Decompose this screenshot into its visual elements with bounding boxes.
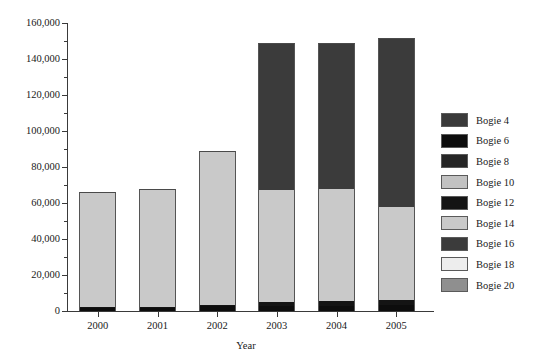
legend-swatch	[441, 196, 468, 210]
chart-figure: 020,00040,00060,00080,000100,000120,0001…	[0, 0, 541, 362]
bar-segment[interactable]	[199, 151, 236, 305]
y-axis-tick-label: 40,000	[31, 234, 60, 245]
x-axis-tick-label: 2004	[326, 320, 347, 331]
y-axis-labels: 020,00040,00060,00080,000100,000120,0001…	[0, 0, 67, 362]
x-axis-tick	[396, 311, 397, 317]
x-axis-tick-label: 2002	[207, 320, 228, 331]
y-axis-tick-minor	[64, 221, 68, 222]
legend-swatch	[441, 216, 468, 230]
legend-item[interactable]: Bogie 8	[441, 151, 539, 172]
bar-stack[interactable]	[139, 23, 176, 311]
legend-item[interactable]: Bogie 16	[441, 234, 539, 255]
bar-stack[interactable]	[258, 23, 295, 311]
bar-stack[interactable]	[199, 23, 236, 311]
legend-swatch	[441, 237, 468, 251]
bar-segment[interactable]	[318, 189, 355, 301]
bar-stack[interactable]	[79, 23, 116, 311]
bar-stack[interactable]	[378, 23, 415, 311]
legend-label: Bogie 10	[476, 177, 514, 188]
legend-label: Bogie 14	[476, 218, 514, 229]
chart-legend: Bogie 4Bogie 6Bogie 8Bogie 10Bogie 12Bog…	[441, 110, 539, 295]
y-axis-tick-major	[62, 167, 68, 168]
legend-swatch	[441, 113, 468, 127]
bar-segment[interactable]	[79, 192, 116, 307]
x-axis-tick	[158, 311, 159, 317]
y-axis-tick-minor	[64, 41, 68, 42]
legend-item[interactable]: Bogie 14	[441, 213, 539, 234]
y-axis-tick-minor	[64, 293, 68, 294]
legend-label: Bogie 16	[476, 238, 514, 249]
bar-segment[interactable]	[199, 305, 236, 307]
y-axis-tick-label: 60,000	[31, 198, 60, 209]
legend-label: Bogie 4	[476, 115, 509, 126]
y-axis-tick-minor	[64, 77, 68, 78]
legend-item[interactable]: Bogie 18	[441, 254, 539, 275]
x-axis-tick	[98, 311, 99, 317]
legend-label: Bogie 12	[476, 197, 514, 208]
x-axis-tick-label: 2003	[266, 320, 287, 331]
legend-label: Bogie 8	[476, 156, 509, 167]
y-axis-tick-label: 160,000	[26, 18, 60, 29]
y-axis-tick-major	[62, 203, 68, 204]
bar-segment[interactable]	[378, 207, 415, 301]
bar-segment[interactable]	[378, 38, 415, 206]
legend-swatch	[441, 257, 468, 271]
y-axis-tick-minor	[64, 149, 68, 150]
bar-segment[interactable]	[378, 300, 415, 305]
legend-label: Bogie 6	[476, 135, 509, 146]
x-axis-tick	[337, 311, 338, 317]
bar-segment[interactable]	[258, 302, 295, 306]
bar-segment[interactable]	[139, 189, 176, 307]
legend-item[interactable]: Bogie 20	[441, 275, 539, 296]
y-axis-tick-major	[62, 275, 68, 276]
y-axis-tick-minor	[64, 113, 68, 114]
y-axis-tick-major	[62, 95, 68, 96]
y-axis-tick-label: 140,000	[26, 54, 60, 65]
x-axis-tick-label: 2001	[147, 320, 168, 331]
plot-area	[68, 23, 426, 311]
y-axis-tick-major	[62, 239, 68, 240]
y-axis-tick-major	[62, 23, 68, 24]
x-axis-tick-label: 2005	[386, 320, 407, 331]
y-axis-tick-minor	[64, 185, 68, 186]
legend-label: Bogie 18	[476, 259, 514, 270]
legend-item[interactable]: Bogie 4	[441, 110, 539, 131]
bar-segment[interactable]	[139, 307, 176, 308]
y-axis-tick-minor	[64, 257, 68, 258]
x-axis-tick-label: 2000	[87, 320, 108, 331]
legend-item[interactable]: Bogie 6	[441, 131, 539, 152]
legend-item[interactable]: Bogie 10	[441, 172, 539, 193]
y-axis-tick-label: 80,000	[31, 162, 60, 173]
legend-label: Bogie 20	[476, 280, 514, 291]
bar-segment[interactable]	[79, 307, 116, 308]
x-axis-tick	[277, 311, 278, 317]
legend-swatch	[441, 278, 468, 292]
bar-stack[interactable]	[318, 23, 355, 311]
y-axis-tick-label: 100,000	[26, 126, 60, 137]
y-axis-tick-label: 20,000	[31, 270, 60, 281]
bar-segment[interactable]	[318, 43, 355, 189]
x-axis-area: Year 200020012002200320042005	[0, 311, 541, 362]
bar-segment[interactable]	[258, 190, 295, 302]
legend-item[interactable]: Bogie 12	[441, 192, 539, 213]
x-axis-title: Year	[236, 340, 255, 351]
legend-swatch	[441, 134, 468, 148]
bar-segment[interactable]	[318, 301, 355, 306]
y-axis-tick-major	[62, 131, 68, 132]
bar-segment[interactable]	[258, 43, 295, 191]
y-axis-tick-major	[62, 311, 68, 312]
y-axis-tick-major	[62, 59, 68, 60]
y-axis-tick-label: 120,000	[26, 90, 60, 101]
legend-swatch	[441, 154, 468, 168]
x-axis-tick	[217, 311, 218, 317]
legend-swatch	[441, 175, 468, 189]
